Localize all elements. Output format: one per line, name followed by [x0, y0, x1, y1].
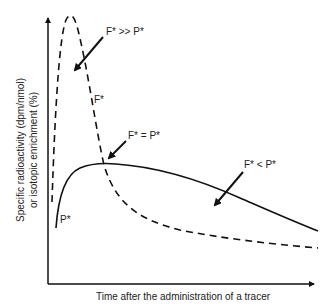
- tracer-kinetics-diagram: F* >> P* F* F* = P* F* < P* P* Time afte…: [0, 0, 334, 304]
- x-axis-label: Time after the administration of a trace…: [96, 291, 271, 302]
- label-f-equal-p: F* = P*: [128, 130, 160, 141]
- curve-p-star: [56, 163, 318, 231]
- label-p-star: P*: [60, 214, 71, 225]
- label-f-much-greater-p: F* >> P*: [106, 26, 144, 37]
- label-f-less-p: F* < P*: [244, 159, 276, 170]
- label-f-star: F*: [94, 94, 104, 105]
- y-axis-label-line1: Specific radioactivity (dpm/nmol): [15, 78, 26, 222]
- y-axis-label-line2: or isotopic enrichment (%): [28, 92, 39, 208]
- arrow-f-much-greater-p: [75, 37, 103, 70]
- arrow-f-equal-p: [109, 141, 126, 158]
